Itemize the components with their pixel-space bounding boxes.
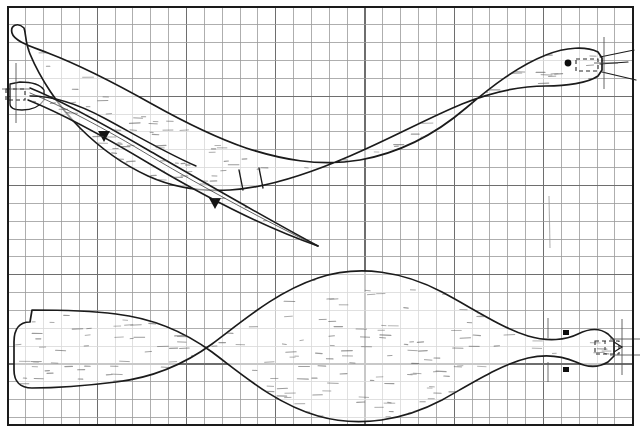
hatch-stroke <box>586 65 593 66</box>
hatch-stroke <box>282 344 286 345</box>
shoulder-pin-marks <box>563 330 569 335</box>
hatch-stroke <box>473 335 480 336</box>
hatch-stroke <box>424 360 431 361</box>
hatch-stroke <box>16 344 21 345</box>
hatch-stroke <box>157 180 167 181</box>
bird-pattern-drawing <box>0 0 644 434</box>
hatch-stroke <box>265 362 274 363</box>
hatch-stroke <box>477 316 482 317</box>
hatch-stroke <box>145 351 151 352</box>
hatch-stroke <box>504 335 515 336</box>
hatch-stroke <box>300 340 303 341</box>
hatch-stroke <box>286 352 296 353</box>
hatch-stroke <box>380 338 386 339</box>
drawing-canvas <box>0 0 644 434</box>
hatch-stroke <box>130 130 136 131</box>
hatch-stroke <box>417 342 423 343</box>
hatch-stroke <box>85 335 90 336</box>
hatch-stroke <box>594 352 604 353</box>
shoulder-pin-marks <box>563 367 569 372</box>
eye-marker <box>565 60 572 67</box>
hatch-stroke <box>285 316 293 317</box>
hatch-stroke <box>180 130 188 131</box>
